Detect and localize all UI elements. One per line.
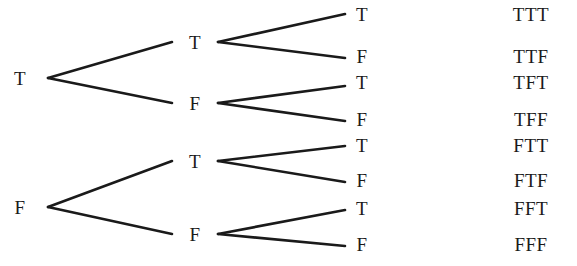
tree-node-level3: T (356, 136, 368, 155)
tree-branch-line (218, 146, 345, 161)
tree-branch-line (218, 86, 345, 103)
tree-node-level2: T (189, 152, 201, 171)
tree-edges-layer (0, 0, 577, 266)
outcome-label: FTF (514, 171, 548, 190)
tree-node-level3: F (357, 235, 368, 254)
tree-node-level3: F (357, 47, 368, 66)
tree-branch-line (218, 234, 345, 246)
tree-node-level2: T (189, 33, 201, 52)
tree-node-level1: F (15, 198, 26, 217)
outcome-label: FFF (514, 235, 547, 254)
outcome-label: TFT (513, 73, 548, 92)
tree-branch-line (218, 210, 345, 234)
tree-branch-line (218, 103, 345, 121)
tree-branch-line (218, 14, 345, 42)
probability-tree-diagram: TFTFTFTFTFTFTF TTTTTFTFTTFFFTTFTFFFTFFF (0, 0, 577, 266)
tree-node-level3: F (357, 171, 368, 190)
outcome-label: FFT (514, 199, 548, 218)
tree-node-level3: T (356, 199, 368, 218)
tree-node-level1: T (14, 69, 26, 88)
tree-branch-line (48, 78, 172, 103)
outcome-label: TTT (513, 5, 549, 24)
tree-branch-line (48, 42, 172, 78)
tree-node-level3: T (356, 5, 368, 24)
tree-branch-line (48, 161, 172, 207)
tree-branch-line (48, 207, 172, 234)
tree-node-level3: T (356, 73, 368, 92)
outcome-label: FTT (513, 136, 548, 155)
tree-node-level3: F (357, 110, 368, 129)
outcome-label: TTF (513, 47, 548, 66)
tree-node-level2: F (190, 94, 201, 113)
tree-branch-line (218, 42, 345, 58)
tree-node-level2: F (190, 225, 201, 244)
outcome-label: TFF (514, 110, 548, 129)
tree-branch-line (218, 161, 345, 182)
